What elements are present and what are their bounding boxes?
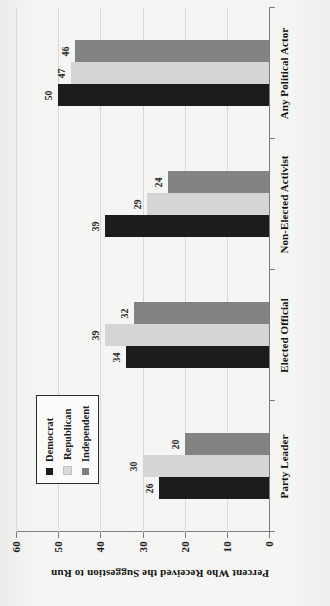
rotated-figure-canvas: Percent Who Received the Suggestion to R… [0,0,330,606]
bar[interactable]: 39 [105,216,269,238]
bar[interactable]: 30 [143,456,270,478]
y-axis-tick [269,532,270,538]
y-axis-tick [100,532,101,538]
x-axis-tick [269,400,275,401]
bar[interactable]: 24 [168,172,269,194]
x-axis-tick [269,138,275,139]
bar-value-label: 50 [43,91,54,101]
x-axis-tick [269,7,275,8]
x-axis-category-label: Non-Elected Activist [278,155,290,253]
legend-entry[interactable]: Republican [62,405,73,475]
bar[interactable]: 26 [159,478,269,500]
bar-value-label: 24 [153,178,164,188]
y-axis-tick [58,532,59,538]
legend-swatch-independent [82,468,89,475]
legend-label: Independent [80,405,91,462]
y-axis-tick [143,532,144,538]
bar-chart-figure: Percent Who Received the Suggestion to R… [0,0,330,606]
bar[interactable]: 39 [105,325,269,347]
y-axis-tick-label: 20 [179,541,191,552]
legend-swatch-republican [63,466,72,475]
bar-value-label: 32 [119,309,130,319]
bar[interactable]: 32 [134,303,269,325]
bar[interactable]: 47 [71,63,269,85]
bar-value-label: 47 [56,69,67,79]
y-axis-tick-label: 60 [10,541,22,552]
y-axis-tick [227,532,228,538]
scanned-page: Percent Who Received the Suggestion to R… [0,0,330,606]
y-axis-tick [16,532,17,538]
x-axis-tick [269,269,275,270]
legend-label: Republican [62,409,73,460]
x-axis-category-label: Party Leader [278,435,290,499]
bar-value-label: 39 [90,331,101,341]
bar-value-label: 39 [90,222,101,232]
legend-entry[interactable]: Democrat [44,405,55,475]
bar-value-label: 29 [132,200,143,210]
bar-value-label: 46 [60,47,71,57]
legend-entry[interactable]: Independent [80,405,91,475]
x-axis-category-label: Elected Official [278,298,290,373]
bar-value-label: 26 [144,484,155,494]
bar[interactable]: 46 [75,41,269,63]
y-axis-tick-label: 0 [263,541,275,547]
bar-value-label: 34 [111,353,122,363]
bar-group: 392924 [16,139,269,270]
bar[interactable]: 34 [126,347,269,369]
bar-group: 343932 [16,270,269,401]
y-axis-tick-label: 50 [52,541,64,552]
legend-swatch-democrat [46,468,53,475]
x-axis-tick [269,531,275,532]
y-axis-tick-label: 10 [221,541,233,552]
legend-label: Democrat [44,418,55,462]
y-axis-tick-label: 40 [94,541,106,552]
x-axis-category-label: Any Political Actor [278,28,290,120]
bar-value-label: 20 [170,440,181,450]
bar-group: 504746 [16,8,269,139]
bar-value-label: 30 [128,462,139,472]
y-axis-title: Percent Who Received the Suggestion to R… [51,568,269,580]
y-axis-tick [185,532,186,538]
y-axis-tick-label: 30 [137,541,149,552]
bar[interactable]: 29 [147,194,269,216]
chart-legend: DemocratRepublicanIndependent [36,395,99,484]
bar[interactable]: 20 [185,434,269,456]
bar[interactable]: 50 [58,85,269,107]
